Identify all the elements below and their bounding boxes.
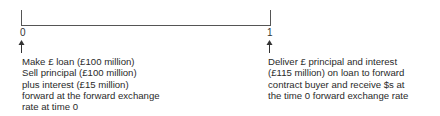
time-0-description: Make £ loan (£100 million) Sell principa… [22,56,160,112]
description-line: (£115 million) on loan to forward [268,67,408,78]
timeline-axis [21,10,271,26]
time-0-label: 0 [20,27,26,38]
description-line: Sell principal (£100 million) [22,67,160,78]
description-line: the time 0 forward exchange rate [268,90,408,101]
description-line: contract buyer and receive $s at [268,79,408,90]
description-line: plus interest (£15 million) [22,79,160,90]
up-arrow-icon [266,40,273,53]
time-1-description: Deliver £ principal and interest (£115 m… [268,56,408,101]
description-line: Make £ loan (£100 million) [22,56,160,67]
up-arrow-icon [18,40,25,53]
description-line: rate at time 0 [22,101,160,112]
description-line: forward at the forward exchange [22,90,160,101]
time-1-label: 1 [267,27,273,38]
description-line: Deliver £ principal and interest [268,56,408,67]
